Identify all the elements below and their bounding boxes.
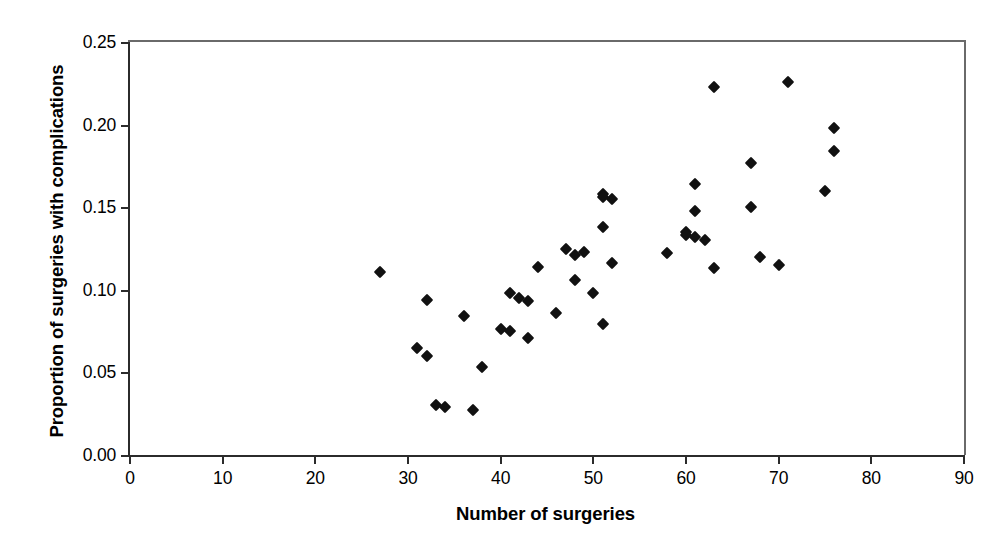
data-point [531,260,544,273]
data-point [420,293,433,306]
data-point [596,318,609,331]
y-tick-mark [121,207,130,209]
data-point [689,204,702,217]
x-tick-label: 20 [306,468,325,489]
data-point [828,122,841,135]
x-axis-title: Number of surgeries [128,503,963,525]
x-tick-label: 60 [676,468,695,489]
y-tick-label: 0.25 [83,32,116,53]
data-point [522,295,535,308]
data-point [819,184,832,197]
x-tick-mark [407,455,409,464]
data-point [374,265,387,278]
y-tick-label: 0.05 [83,362,116,383]
x-tick-label: 50 [584,468,603,489]
x-tick-label: 80 [862,468,881,489]
data-point [707,80,720,93]
x-tick-label: 10 [213,468,232,489]
data-point [754,250,767,263]
y-tick-mark [121,372,130,374]
data-point [605,257,618,270]
data-point [587,287,600,300]
plot-area: 0.000.050.100.150.200.25 010203040506070… [128,42,964,457]
data-point [689,178,702,191]
y-tick-mark [121,290,130,292]
x-tick-label: 70 [769,468,788,489]
x-tick-label: 0 [125,468,135,489]
y-tick-label: 0.00 [83,445,116,466]
data-point [411,341,424,354]
data-point [476,361,489,374]
x-tick-mark [685,455,687,464]
data-point [661,247,674,260]
data-point [828,145,841,158]
plot-top-border [128,40,964,42]
y-tick-label: 0.10 [83,279,116,300]
data-point [782,75,795,88]
data-point [772,259,785,272]
x-tick-mark [870,455,872,464]
x-tick-mark [129,455,131,464]
data-point [596,221,609,234]
x-tick-label: 40 [491,468,510,489]
data-point [568,274,581,287]
scatter-plot-figure: Proportion of surgeries with complicatio… [0,0,1008,548]
x-tick-mark [314,455,316,464]
x-tick-label: 30 [398,468,417,489]
plot-right-border [964,40,966,455]
x-tick-mark [778,455,780,464]
data-point [522,331,535,344]
y-tick-mark [121,125,130,127]
data-point [420,350,433,363]
y-tick-mark [121,42,130,44]
data-point [457,310,470,323]
x-tick-mark [963,455,965,464]
y-tick-label: 0.20 [83,114,116,135]
data-point [550,307,563,320]
data-point [744,201,757,214]
data-point [466,404,479,417]
data-point [744,156,757,169]
x-tick-mark [592,455,594,464]
y-axis-title: Proportion of surgeries with complicatio… [46,26,68,476]
y-tick-label: 0.15 [83,197,116,218]
x-tick-label: 90 [954,468,973,489]
data-point [707,262,720,275]
x-tick-mark [500,455,502,464]
x-tick-mark [222,455,224,464]
